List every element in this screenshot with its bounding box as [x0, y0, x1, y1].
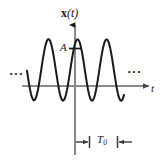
t-axis-label: t: [151, 83, 154, 94]
figure-container: x(t) A t T0 ··· ···: [0, 0, 164, 167]
amplitude-label: A: [60, 42, 67, 53]
period-label: T0: [97, 134, 107, 145]
y-axis-label: x(t): [61, 7, 78, 19]
ellipsis-right: ···: [127, 65, 142, 78]
y-axis-function-arg: (t): [67, 6, 78, 20]
period-label-subscript: 0: [103, 138, 107, 147]
ellipsis-left: ···: [9, 67, 24, 80]
waveform-figure-svg: [0, 0, 164, 167]
